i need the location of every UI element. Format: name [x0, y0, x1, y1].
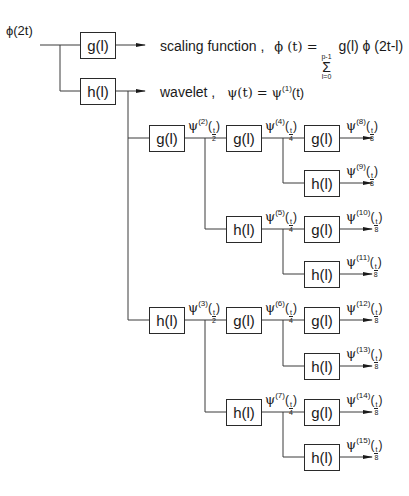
filter-g-level3-a: g(l) [226, 125, 262, 152]
filter-g-level4-1: g(l) [304, 125, 340, 152]
filter-g-level2: g(l) [149, 125, 185, 152]
filter-g-level4-2: g(l) [304, 216, 340, 243]
filter-g-root: g(l) [80, 32, 116, 59]
node-label-psi14: ψ(14)(t8) [346, 392, 382, 416]
filter-h-root: h(l) [80, 78, 116, 105]
scaling-eq-rhs: g(l) ϕ (2t-l) [338, 38, 403, 54]
node-label-psi5: ψ(5)(t4) [265, 209, 297, 233]
filter-h-level4-2: h(l) [304, 261, 340, 288]
node-label-psi11: ψ(11)(t8) [346, 254, 382, 278]
filter-h-level4-1: h(l) [304, 170, 340, 197]
filter-h-level2: h(l) [149, 307, 185, 334]
node-label-psi13: ψ(13)(t8) [346, 346, 382, 370]
node-label-psi7: ψ(7)(t4) [265, 392, 297, 416]
node-label-psi3: ψ(3)(t2) [188, 300, 220, 324]
node-label-psi9: ψ(9)(t8) [346, 163, 378, 187]
filter-g-level4-3: g(l) [304, 307, 340, 334]
scaling-function-label: scaling function , ϕ (t) = p-1 Σ l=0 g(l… [160, 38, 403, 81]
filter-h-level4-4: h(l) [304, 444, 340, 471]
filter-g-level4-4: g(l) [304, 399, 340, 426]
node-label-psi4: ψ(4)(t4) [265, 118, 297, 142]
node-label-psi15: ψ(15)(t8) [346, 437, 382, 461]
scaling-eq-lhs: ϕ (t) = [274, 39, 317, 54]
filter-h-level4-3: h(l) [304, 353, 340, 380]
node-label-psi8: ψ(8)(t8) [346, 118, 378, 142]
node-label-psi10: ψ(10)(t8) [346, 209, 382, 233]
node-label-psi2: ψ(2)(t2) [188, 118, 220, 142]
filter-g-level3-b: g(l) [226, 307, 262, 334]
filter-h-level3-a: h(l) [226, 216, 262, 243]
summation: p-1 Σ l=0 [321, 53, 331, 81]
input-label: ϕ(2t) [6, 23, 33, 38]
filter-h-level3-b: h(l) [226, 399, 262, 426]
node-label-psi12: ψ(12)(t8) [346, 300, 382, 324]
wavelet-label: wavelet , ψ(t) = ψ(1)(t) [160, 84, 304, 100]
node-label-psi6: ψ(6)(t4) [265, 300, 297, 324]
